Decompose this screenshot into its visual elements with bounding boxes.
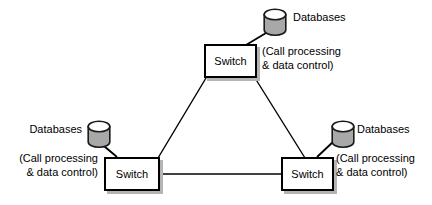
database-label-top-text: Databases [293, 11, 346, 23]
database-label-left: Databases [0, 123, 82, 137]
database-cylinder-left[interactable] [86, 120, 112, 150]
switch-node-right-label: Switch [291, 169, 323, 180]
database-cylinder-right[interactable] [330, 120, 356, 150]
annotation-top-line1: (Call processing [262, 45, 341, 59]
switch-node-left-label: Switch [116, 169, 148, 180]
annotation-top: (Call processing & data control) [262, 45, 341, 72]
network-diagram: Switch Switch Switch Databases Databases… [0, 0, 432, 205]
annotation-left: (Call processing & data control) [0, 152, 98, 179]
database-label-top: Databases [293, 11, 346, 25]
link-top-to-left [158, 78, 206, 158]
database-label-left-text: Databases [29, 123, 82, 135]
database-label-right-text: Databases [357, 123, 410, 135]
link-top-to-right [255, 78, 305, 158]
switch-node-right[interactable]: Switch [281, 157, 334, 191]
annotation-left-line2: & data control) [0, 166, 98, 180]
switch-node-top-label: Switch [214, 56, 246, 67]
database-cylinder-top[interactable] [262, 8, 288, 38]
annotation-left-line1: (Call processing [0, 152, 98, 166]
database-label-right: Databases [357, 123, 410, 137]
annotation-top-line2: & data control) [262, 59, 341, 73]
switch-node-top[interactable]: Switch [204, 44, 257, 78]
annotation-right: (Call processing & data control) [336, 152, 415, 179]
switch-node-left[interactable]: Switch [104, 157, 160, 191]
annotation-right-line2: & data control) [336, 166, 415, 180]
annotation-right-line1: (Call processing [336, 152, 415, 166]
